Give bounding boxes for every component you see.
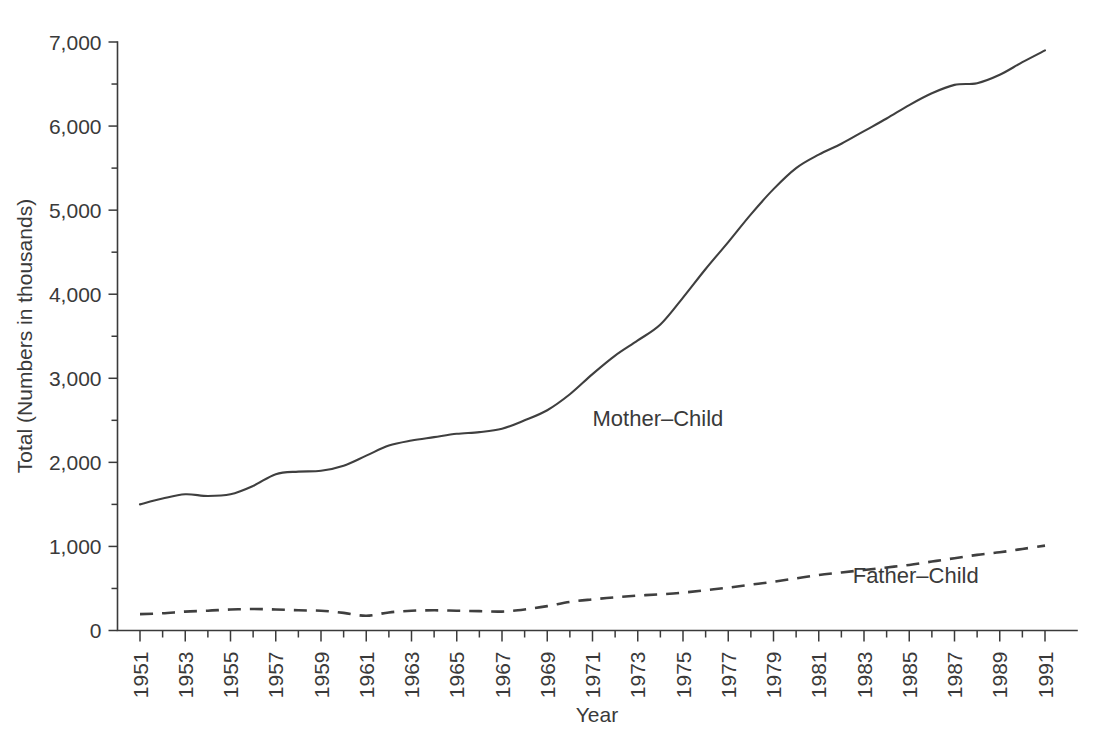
y-tick-label: 3,000 bbox=[49, 367, 102, 390]
x-tick-label: 1985 bbox=[898, 652, 921, 699]
x-tick-label: 1971 bbox=[581, 652, 604, 699]
x-tick-label: 1987 bbox=[943, 652, 966, 699]
x-axis-title: Year bbox=[576, 703, 618, 726]
y-axis-title: Total (Numbers in thousands) bbox=[13, 199, 36, 473]
line-chart: 01,0002,0003,0004,0005,0006,0007,000 195… bbox=[0, 0, 1109, 748]
y-axis-tick-labels: 01,0002,0003,0004,0005,0006,0007,000 bbox=[49, 31, 102, 643]
x-tick-label: 1959 bbox=[310, 652, 333, 699]
y-tick-label: 6,000 bbox=[49, 115, 102, 138]
y-tick-label: 5,000 bbox=[49, 199, 102, 222]
x-tick-label: 1973 bbox=[626, 652, 649, 699]
y-tick-label: 7,000 bbox=[49, 31, 102, 54]
y-tick-label: 0 bbox=[90, 619, 102, 642]
x-tick-label: 1951 bbox=[129, 652, 152, 699]
series-label-mother-child: Mother–Child bbox=[593, 406, 724, 431]
x-tick-label: 1961 bbox=[355, 652, 378, 699]
y-tick-label: 4,000 bbox=[49, 283, 102, 306]
x-tick-label: 1969 bbox=[536, 652, 559, 699]
x-axis-tick-labels: 1951195319551957195919611963196519671969… bbox=[129, 652, 1057, 699]
x-tick-label: 1953 bbox=[174, 652, 197, 699]
x-tick-label: 1957 bbox=[264, 652, 287, 699]
series-label-father-child: Father–Child bbox=[853, 563, 979, 588]
axis-lines bbox=[118, 42, 1078, 631]
x-tick-label: 1955 bbox=[219, 652, 242, 699]
x-tick-label: 1979 bbox=[762, 652, 785, 699]
x-axis-major-ticks bbox=[140, 631, 1045, 642]
x-tick-label: 1963 bbox=[400, 652, 423, 699]
x-tick-label: 1967 bbox=[491, 652, 514, 699]
chart-container: 01,0002,0003,0004,0005,0006,0007,000 195… bbox=[0, 0, 1109, 748]
x-tick-label: 1981 bbox=[807, 652, 830, 699]
y-axis-minor-ticks bbox=[112, 84, 118, 588]
x-tick-label: 1991 bbox=[1034, 652, 1057, 699]
x-tick-label: 1975 bbox=[672, 652, 695, 699]
x-tick-label: 1983 bbox=[853, 652, 876, 699]
y-tick-label: 2,000 bbox=[49, 451, 102, 474]
x-tick-label: 1989 bbox=[988, 652, 1011, 699]
y-tick-label: 1,000 bbox=[49, 535, 102, 558]
series-line-mother-child bbox=[140, 50, 1045, 504]
x-tick-label: 1977 bbox=[717, 652, 740, 699]
x-tick-label: 1965 bbox=[445, 652, 468, 699]
